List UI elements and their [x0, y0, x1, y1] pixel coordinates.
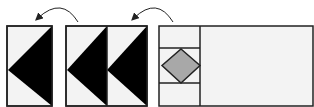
panel-double-goose	[66, 26, 147, 106]
panel-square-in-square	[159, 26, 313, 106]
curved-arrow-icon	[38, 8, 78, 22]
panel-single-goose	[7, 26, 52, 106]
curved-arrow-icon	[134, 8, 173, 22]
quilt-diagram	[0, 0, 314, 107]
